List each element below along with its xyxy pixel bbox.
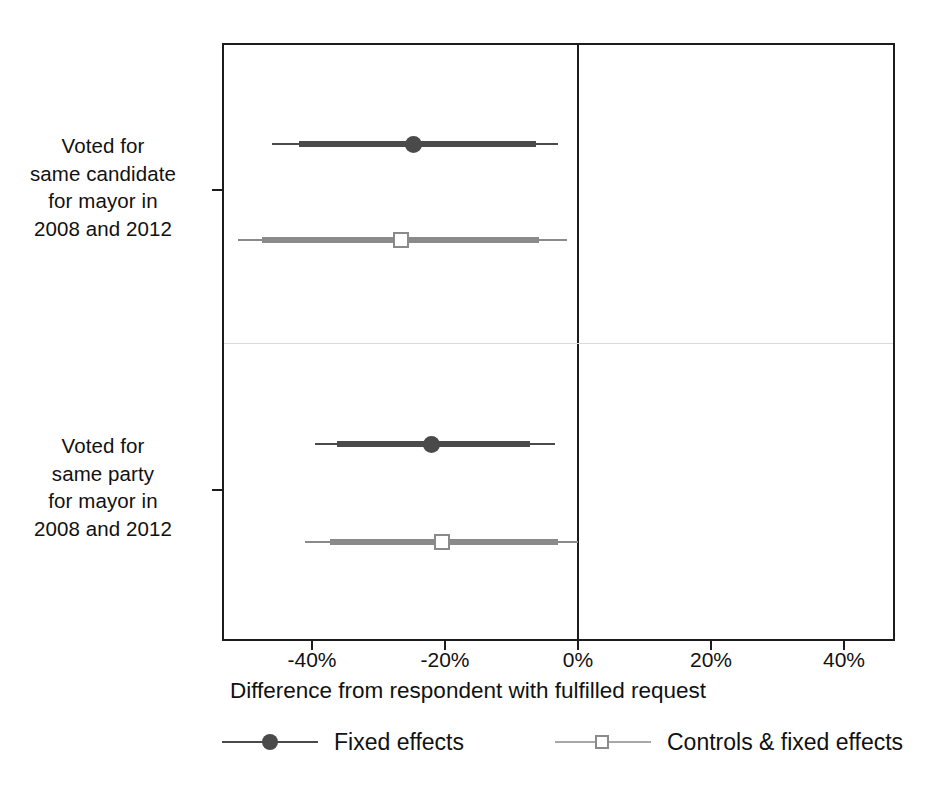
y-category-label-candidate-line2: same candidate <box>0 160 206 188</box>
x-tick-label-0: 0% <box>538 648 618 672</box>
y-category-label-party: Voted for same party for mayor in 2008 a… <box>0 432 206 542</box>
legend-key-filled-circle-icon <box>222 731 318 753</box>
y-category-label-party-line1: Voted for <box>0 432 206 460</box>
coefficient-plot-figure: Voted for same candidate for mayor in 20… <box>0 0 936 791</box>
y-category-label-candidate-line1: Voted for <box>0 132 206 160</box>
legend-label-controls-fixed-effects: Controls & fixed effects <box>667 729 903 756</box>
y-category-label-candidate-line4: 2008 and 2012 <box>0 215 206 243</box>
legend: Fixed effects Controls & fixed effects <box>0 722 936 768</box>
legend-entry-controls-fixed-effects[interactable]: Controls & fixed effects <box>555 722 903 762</box>
x-tick-label-minus-40: -40% <box>272 648 352 672</box>
x-axis-title: Difference from respondent with fulfille… <box>0 678 936 704</box>
y-tick-candidate <box>212 189 222 191</box>
y-category-label-party-line4: 2008 and 2012 <box>0 515 206 543</box>
group-divider <box>224 343 893 344</box>
legend-label-fixed-effects: Fixed effects <box>334 729 464 756</box>
y-category-label-candidate-line3: for mayor in <box>0 187 206 215</box>
x-tick-label-40: 40% <box>804 648 884 672</box>
y-category-label-party-line3: for mayor in <box>0 487 206 515</box>
x-tick-label-minus-20: -20% <box>405 648 485 672</box>
plot-area <box>222 43 895 641</box>
legend-key-open-square-icon <box>555 731 651 753</box>
zero-reference-line <box>577 43 579 641</box>
point-estimate-party-fixed-effects <box>423 436 440 453</box>
legend-entry-fixed-effects[interactable]: Fixed effects <box>222 722 464 762</box>
x-tick-label-20: 20% <box>671 648 751 672</box>
y-category-label-candidate: Voted for same candidate for mayor in 20… <box>0 132 206 242</box>
point-estimate-candidate-fixed-effects <box>405 136 422 153</box>
point-estimate-party-controls-fixed-effects <box>434 534 450 550</box>
y-tick-party <box>212 489 222 491</box>
y-category-label-party-line2: same party <box>0 460 206 488</box>
point-estimate-candidate-controls-fixed-effects <box>393 232 409 248</box>
